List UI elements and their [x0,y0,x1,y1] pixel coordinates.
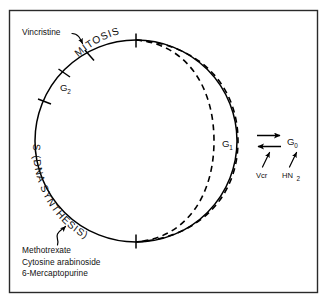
cell-cycle-figure: MITOSIS S (DNA SYNTHESIS) G 2 G 1 G 0 [0,0,328,304]
cycle-tick-marks-group [38,34,136,249]
dashed-arc-inner [136,40,214,242]
label-drug-cytosine-arabinoside: Cytosine arabinoside [22,257,101,267]
hn2-pointer-group: HN 2 [282,153,301,182]
label-g0-subscript: 0 [294,142,298,149]
arrow-hn2-pointer [290,153,297,168]
label-g0-group: G 0 [287,136,298,149]
arrow-vincristine-pointer [72,34,83,44]
label-g1-group: G 1 [222,138,233,151]
g1-g0-exchange-arrows [257,136,281,147]
label-hn2-subscript: 2 [297,175,301,182]
vcr-pointer-group: Vcr [256,153,270,181]
label-vincristine: Vincristine [22,27,61,37]
label-g2-group: G 2 [60,82,71,95]
label-s-phase: S (DNA SYNTHESIS) [31,144,90,241]
s-phase-drugs-annotation-group: Methotrexate Cytosine arabinoside 6-Merc… [22,227,101,279]
arrow-vcr-pointer [263,153,270,168]
label-drug-methotrexate: Methotrexate [22,245,71,255]
vincristine-annotation-group: Vincristine [22,27,83,44]
label-drug-6-mercaptopurine: 6-Mercaptopurine [22,268,88,278]
label-vcr: Vcr [256,171,268,180]
arrow-s-phase-drugs-pointer [57,227,66,246]
label-g1-subscript: 1 [229,144,233,151]
cell-cycle-diagram-svg: MITOSIS S (DNA SYNTHESIS) G 2 G 1 G 0 [0,0,328,304]
label-hn2: HN [282,171,293,180]
label-g2-subscript: 2 [67,88,71,95]
